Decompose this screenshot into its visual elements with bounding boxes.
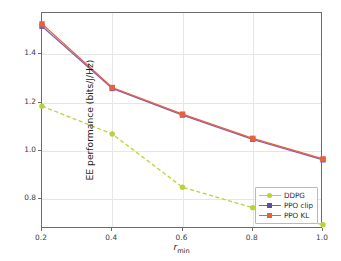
x-tick-mark — [322, 228, 323, 231]
chart-legend[interactable]: DDPG PPO clip PPO KL — [255, 187, 318, 224]
x-axis-label: rmin — [41, 241, 322, 255]
legend-label-ppo-clip: PPO clip — [284, 201, 313, 210]
y-tick-label: 0.8 — [24, 193, 36, 202]
legend-label-ddpg: DDPG — [284, 191, 305, 200]
x-tick-mark — [41, 228, 42, 231]
y-tick-label: 1.2 — [24, 97, 36, 106]
legend-item-ddpg[interactable]: DDPG — [259, 191, 313, 200]
legend-label-ppo-kl: PPO KL — [284, 211, 309, 220]
legend-swatch-ppo-kl — [259, 212, 281, 220]
y-axis-label: EE performance (bits/J/Hz) — [84, 20, 95, 220]
y-tick-label: 1.4 — [24, 48, 36, 57]
x-tick-mark — [111, 228, 112, 231]
legend-swatch-ddpg — [259, 192, 281, 200]
x-tick-mark — [252, 228, 253, 231]
legend-item-ppo-clip[interactable]: PPO clip — [259, 201, 313, 210]
x-tick-mark — [182, 228, 183, 231]
x-axis-label-subscript: min — [177, 247, 189, 255]
legend-item-ppo-kl[interactable]: PPO KL — [259, 211, 313, 220]
chart-figure: DDPG PPO clip PPO KL 0.81.01.21.4 0.20.4… — [0, 0, 341, 261]
legend-swatch-ppo-clip — [259, 202, 281, 210]
y-tick-label: 1.0 — [24, 145, 36, 154]
